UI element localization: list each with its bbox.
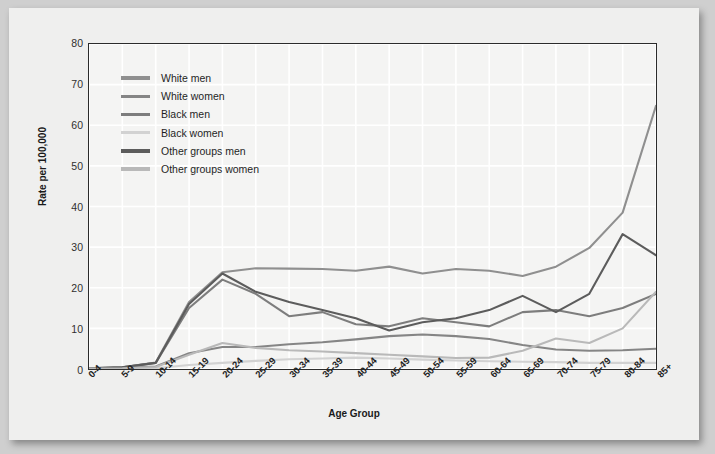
legend-item-black-women: Black women <box>121 124 259 142</box>
legend-item-white-men: White men <box>121 69 259 87</box>
y-axis-title: Rate per 100,000 <box>37 127 48 206</box>
series-line-other-groups-men <box>89 234 656 368</box>
legend-swatch-icon <box>121 76 150 79</box>
legend-label: Other groups women <box>161 163 259 175</box>
legend-swatch-icon <box>121 95 150 98</box>
legend-item-white-women: White women <box>121 87 259 105</box>
legend-label: Black women <box>161 127 223 139</box>
legend-label: Other groups men <box>161 145 246 157</box>
y-tick-40: 40 <box>71 201 83 213</box>
y-axis-tick-labels: 01020304050607080 <box>55 43 83 370</box>
legend-swatch-icon <box>121 149 150 152</box>
y-tick-50: 50 <box>71 160 83 172</box>
legend-label: White women <box>161 90 225 102</box>
y-tick-80: 80 <box>71 37 83 49</box>
x-tick-85+: 85+ <box>655 361 674 380</box>
legend-swatch-icon <box>121 131 150 134</box>
y-tick-20: 20 <box>71 282 83 294</box>
legend-item-other-groups-men: Other groups men <box>121 142 259 160</box>
legend-label: Black men <box>161 108 210 120</box>
chart-legend: White menWhite womenBlack menBlack women… <box>121 69 259 178</box>
legend-label: White men <box>161 72 211 84</box>
y-tick-60: 60 <box>71 119 83 131</box>
legend-item-other-groups-women: Other groups women <box>121 160 259 178</box>
y-tick-0: 0 <box>77 364 83 376</box>
x-axis-title: Age Group <box>9 408 699 419</box>
chart-figure: Rate per 100,000 01020304050607080 0-45-… <box>9 8 699 440</box>
y-tick-30: 30 <box>71 241 83 253</box>
y-tick-10: 10 <box>71 323 83 335</box>
legend-item-black-men: Black men <box>121 105 259 123</box>
legend-swatch-icon <box>121 113 150 116</box>
y-tick-70: 70 <box>71 78 83 90</box>
legend-swatch-icon <box>121 167 150 170</box>
